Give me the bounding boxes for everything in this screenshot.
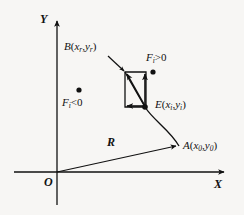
point-a-y: y: [205, 139, 210, 151]
x-axis-label: X: [214, 178, 222, 190]
dot-force-positive: [150, 69, 155, 74]
force-negative-symbol: F: [62, 96, 69, 108]
force-negative-subscript: i: [69, 101, 71, 110]
force-negative-relation: <0: [71, 96, 83, 108]
dot-point-e: [142, 104, 148, 110]
point-a-y-sub: 0: [210, 144, 214, 153]
radius-vector-label: R: [107, 136, 115, 148]
force-positive-label: Fi>0: [146, 52, 167, 63]
point-e-paren-close: ): [182, 98, 186, 110]
point-b-paren-close: ): [93, 40, 97, 52]
force-positive-symbol: F: [146, 51, 153, 63]
diagram-vector-graphics: [0, 0, 244, 215]
dot-force-negative: [76, 87, 81, 92]
r-vector: [57, 146, 176, 172]
force-positive-subscript: i: [153, 56, 155, 65]
point-a-label: A(x0,y0): [183, 140, 217, 151]
force-parallelogram: [125, 72, 146, 107]
point-e-y-sub: i: [180, 103, 182, 112]
point-a-paren-close: ): [213, 139, 217, 151]
y-axis-label: Y: [40, 13, 47, 25]
point-e-name: E: [155, 98, 162, 110]
point-a-name: A: [183, 139, 190, 151]
point-b-y-sub: r: [90, 45, 93, 54]
figure-canvas: Y X O B(xr,yr) E(xi,yi) A(x0,y0) Fi>0 Fi…: [0, 0, 244, 215]
point-a-x-sub: 0: [198, 144, 202, 153]
point-b-label: B(xr,yr): [64, 41, 96, 52]
point-b-x-sub: r: [79, 45, 82, 54]
force-negative-label: Fi<0: [62, 97, 83, 108]
point-b-name: B: [64, 40, 71, 52]
point-e-label: E(xi,yi): [155, 99, 186, 110]
force-positive-relation: >0: [155, 51, 167, 63]
b-leader-line: [108, 56, 124, 71]
origin-label: O: [44, 176, 53, 188]
